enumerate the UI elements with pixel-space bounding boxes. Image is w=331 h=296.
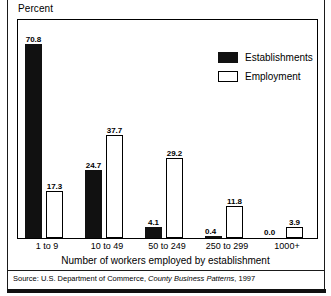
legend-swatch-establishments-icon: [218, 52, 238, 63]
bar-slot-establishments-2: 24.7: [85, 20, 102, 238]
bar-slot-employment-3: 29.2: [166, 20, 183, 238]
bar-employment-4[interactable]: 11.8: [226, 206, 243, 238]
bar-value-establishments-4: 0.4: [205, 228, 216, 236]
x-axis-label: Number of workers employed by establishm…: [0, 255, 331, 266]
y-axis-label: Percent: [18, 3, 53, 14]
bar-employment-3[interactable]: 29.2: [166, 158, 183, 238]
bar-establishments-1[interactable]: 70.8: [25, 44, 42, 238]
bar-group-2: 24.7 37.7: [78, 20, 136, 238]
bar-slot-employment-2: 37.7: [106, 20, 123, 238]
legend-item-establishments[interactable]: Establishments: [218, 49, 313, 65]
bar-employment-1[interactable]: 17.3: [46, 191, 63, 238]
plot-area: 70.8 17.3 24.7 37.7: [18, 20, 317, 238]
bar-value-establishments-5: 0.0: [264, 229, 275, 237]
x-tick-label-4: 250 to 299: [198, 241, 256, 251]
source-prefix: Source: U.S. Department of Commerce,: [13, 274, 148, 283]
bar-value-employment-1: 17.3: [47, 183, 63, 191]
bar-establishments-4[interactable]: 0.4: [205, 236, 222, 238]
x-tick-label-2: 10 to 49: [78, 241, 136, 251]
bar-establishments-2[interactable]: 24.7: [85, 170, 102, 238]
source-note: Source: U.S. Department of Commerce, Cou…: [13, 274, 255, 283]
figure-bottom-rule: [7, 289, 326, 293]
x-tick-label-1: 1 to 9: [18, 241, 76, 251]
x-tick-label-5: 1000+: [258, 241, 316, 251]
source-separator: [8, 270, 324, 271]
bar-slot-establishments-3: 4.1: [145, 20, 162, 238]
x-axis-tick-labels: 1 to 9 10 to 49 50 to 249 250 to 299 100…: [18, 241, 317, 254]
bar-value-employment-5: 3.9: [289, 219, 300, 227]
bar-group-1: 70.8 17.3: [18, 20, 76, 238]
bar-establishments-3[interactable]: 4.1: [145, 227, 162, 238]
bar-slot-employment-1: 17.3: [46, 20, 63, 238]
bar-value-establishments-3: 4.1: [148, 219, 159, 227]
bar-value-employment-4: 11.8: [227, 198, 242, 206]
source-publication: County Business Patterns: [148, 274, 234, 283]
bar-employment-2[interactable]: 37.7: [106, 135, 123, 238]
legend-item-employment[interactable]: Employment: [218, 68, 313, 84]
bar-value-establishments-1: 70.8: [26, 36, 42, 44]
legend-swatch-employment-icon: [218, 71, 238, 82]
chart-figure: Percent 70.8 17.3 24.7: [0, 0, 331, 296]
bar-group-3: 4.1 29.2: [138, 20, 196, 238]
bar-employment-5[interactable]: 3.9: [286, 227, 303, 238]
source-suffix: , 1997: [234, 274, 255, 283]
bar-value-establishments-2: 24.7: [86, 162, 102, 170]
bar-slot-establishments-1: 70.8: [25, 20, 42, 238]
chart-legend: Establishments Employment: [218, 49, 313, 87]
bar-value-employment-2: 37.7: [107, 127, 123, 135]
legend-label-employment: Employment: [245, 71, 301, 82]
x-tick-label-3: 50 to 249: [138, 241, 196, 251]
legend-label-establishments: Establishments: [245, 52, 313, 63]
bar-value-employment-3: 29.2: [167, 150, 183, 158]
